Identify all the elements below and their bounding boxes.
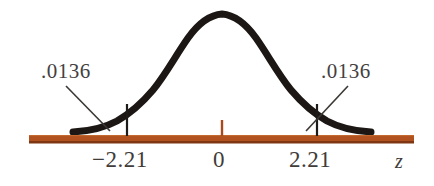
area-label-left-tail: .0136 xyxy=(41,59,91,84)
axis-bar-shadow xyxy=(29,141,414,144)
normal-curve-figure: .0136 .0136 −2.21 0 2.21 z xyxy=(0,0,434,186)
x-tick-label-positive: 2.21 xyxy=(289,147,331,173)
tick-mark-zero xyxy=(221,120,223,136)
area-label-right-tail: .0136 xyxy=(321,59,371,84)
leader-line-left xyxy=(66,86,110,131)
x-tick-label-negative: −2.21 xyxy=(92,147,148,173)
x-axis-name-label: z xyxy=(395,150,403,173)
x-tick-label-zero: 0 xyxy=(213,147,225,173)
